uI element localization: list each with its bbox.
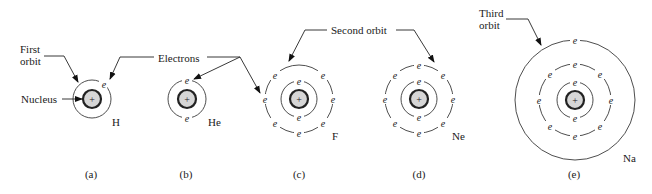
svg-text:e: e: [537, 95, 542, 106]
svg-text:Second orbit: Second orbit: [331, 24, 387, 36]
svg-text:e: e: [297, 112, 302, 123]
svg-text:e: e: [393, 70, 398, 81]
svg-text:e: e: [573, 77, 578, 88]
caption-c: (c): [293, 168, 306, 181]
caption-e: (e): [568, 168, 581, 181]
atom-helium: + e e He (b): [168, 75, 221, 181]
callout-second-orbit: Second orbit: [289, 24, 434, 62]
svg-text:Electrons: Electrons: [158, 52, 200, 64]
electron-label: e: [185, 75, 190, 86]
svg-text:e: e: [273, 118, 278, 129]
svg-text:e: e: [417, 128, 422, 139]
svg-text:First: First: [20, 43, 40, 55]
atom-sodium: + e e e e e e e e e e e Na (e): [515, 35, 636, 181]
element-symbol-ne: Ne: [452, 130, 465, 142]
element-symbol-he: He: [208, 116, 221, 128]
element-symbol-na: Na: [623, 152, 636, 164]
svg-text:e: e: [609, 95, 614, 106]
svg-text:orbit: orbit: [479, 19, 500, 31]
svg-text:e: e: [321, 70, 326, 81]
svg-text:orbit: orbit: [20, 55, 41, 67]
callout-third-orbit: Third orbit: [479, 7, 541, 45]
svg-text:e: e: [331, 94, 336, 105]
svg-text:e: e: [451, 94, 456, 105]
atomic-structure-figure: + e H (a) + e e He (b) + e e e e: [0, 0, 652, 194]
element-symbol-f: F: [332, 130, 338, 142]
callout-first-orbit: First orbit: [20, 43, 78, 82]
svg-text:e: e: [417, 60, 422, 71]
svg-text:e: e: [417, 76, 422, 87]
svg-text:e: e: [297, 128, 302, 139]
electron-label: e: [185, 113, 190, 124]
caption-d: (d): [413, 168, 426, 181]
svg-text:e: e: [441, 70, 446, 81]
svg-text:e: e: [297, 76, 302, 87]
svg-text:e: e: [393, 118, 398, 129]
svg-text:+: +: [572, 95, 578, 106]
callout-electrons: Electrons: [110, 52, 260, 93]
svg-text:e: e: [417, 112, 422, 123]
svg-text:+: +: [416, 94, 422, 105]
svg-text:e: e: [548, 69, 553, 80]
element-symbol-h: H: [112, 116, 120, 128]
svg-text:e: e: [441, 118, 446, 129]
svg-text:+: +: [184, 94, 190, 105]
svg-text:e: e: [573, 113, 578, 124]
electron-label: e: [102, 79, 107, 90]
svg-text:e: e: [598, 121, 603, 132]
svg-text:e: e: [598, 69, 603, 80]
svg-text:+: +: [296, 94, 302, 105]
atom-neon: + e e e e e e e e e e Ne (d): [380, 60, 465, 181]
nucleus-plus: +: [89, 94, 95, 105]
atom-fluorine: + e e e e e e e e e F (c): [260, 65, 338, 181]
svg-text:Third: Third: [479, 7, 504, 19]
svg-text:e: e: [321, 118, 326, 129]
svg-text:e: e: [548, 121, 553, 132]
svg-text:e: e: [573, 59, 578, 70]
svg-text:e: e: [273, 70, 278, 81]
svg-text:e: e: [383, 94, 388, 105]
caption-b: (b): [180, 168, 193, 181]
svg-text:e: e: [573, 131, 578, 142]
callout-nucleus: Nucleus: [21, 93, 82, 105]
svg-text:e: e: [263, 94, 268, 105]
caption-a: (a): [85, 168, 98, 181]
svg-text:Nucleus: Nucleus: [21, 93, 57, 105]
atom-hydrogen: + e H (a): [73, 79, 120, 181]
svg-text:e: e: [573, 35, 578, 46]
